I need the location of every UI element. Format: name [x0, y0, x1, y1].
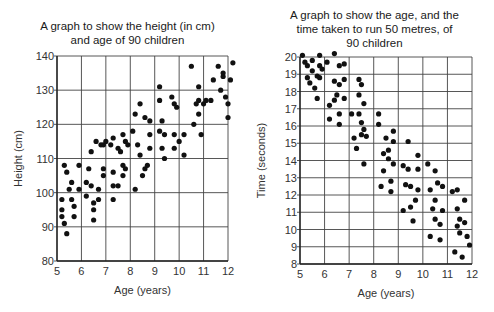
- data-point: [305, 63, 310, 68]
- data-point: [332, 79, 337, 84]
- data-point: [172, 132, 177, 137]
- y-tick-label: 110: [36, 153, 54, 165]
- data-point: [172, 146, 177, 151]
- y-axis-label: Time (seconds): [255, 123, 267, 198]
- data-point: [84, 193, 89, 198]
- x-tick-label: 12: [466, 268, 478, 280]
- data-point: [62, 221, 67, 226]
- data-point: [111, 183, 116, 188]
- grid: [54, 56, 228, 261]
- x-tick-label: 8: [127, 265, 133, 277]
- data-point: [324, 60, 329, 65]
- data-point: [89, 149, 94, 154]
- data-point: [310, 68, 315, 73]
- data-point: [452, 249, 457, 254]
- x-tick-label: 10: [173, 265, 185, 277]
- data-point: [462, 220, 467, 225]
- data-point: [211, 77, 216, 82]
- data-points: [59, 60, 235, 236]
- x-tick-label: 12: [222, 265, 234, 277]
- data-point: [221, 74, 226, 79]
- data-point: [406, 139, 411, 144]
- data-point: [225, 115, 230, 120]
- data-point: [403, 182, 408, 187]
- data-point: [349, 111, 354, 116]
- data-point: [145, 163, 150, 168]
- data-point: [455, 206, 460, 211]
- data-point: [457, 230, 462, 235]
- data-point: [96, 197, 101, 202]
- data-point: [460, 255, 465, 260]
- data-point: [381, 151, 386, 156]
- data-point: [388, 189, 393, 194]
- data-point: [147, 118, 152, 123]
- data-point: [300, 53, 305, 58]
- data-point: [391, 139, 396, 144]
- y-tick-label: 14: [285, 155, 297, 167]
- data-point: [111, 135, 116, 140]
- y-tick-label: 80: [42, 255, 54, 267]
- data-point: [428, 187, 433, 192]
- data-point: [62, 163, 67, 168]
- data-point: [337, 122, 342, 127]
- data-point: [307, 80, 312, 85]
- data-point: [381, 168, 386, 173]
- data-point: [91, 207, 96, 212]
- height-age-chart: A graph to show the height (in cm) and a…: [0, 0, 247, 312]
- x-tick-label: 10: [417, 268, 429, 280]
- y-tick-label: 10: [285, 224, 297, 236]
- data-point: [354, 146, 359, 151]
- data-point: [101, 166, 106, 171]
- data-point: [342, 61, 347, 66]
- data-point: [147, 132, 152, 137]
- scatter-plot: 567891011128090100110120130140Age (years…: [0, 0, 247, 312]
- data-point: [69, 197, 74, 202]
- data-point: [111, 170, 116, 175]
- y-tick-label: 100: [36, 187, 54, 199]
- x-tick-label: 5: [297, 268, 303, 280]
- data-point: [135, 142, 140, 147]
- data-point: [108, 142, 113, 147]
- y-tick-label: 8: [291, 258, 297, 270]
- data-point: [310, 58, 315, 63]
- data-point: [69, 180, 74, 185]
- data-point: [72, 204, 77, 209]
- y-tick-label: 120: [36, 118, 54, 130]
- data-point: [415, 187, 420, 192]
- data-points: [300, 51, 472, 260]
- data-point: [72, 214, 77, 219]
- data-point: [157, 98, 162, 103]
- data-point: [376, 111, 381, 116]
- data-point: [437, 237, 442, 242]
- data-point: [208, 98, 213, 103]
- data-point: [320, 66, 325, 71]
- x-tick-label: 8: [371, 268, 377, 280]
- data-point: [91, 200, 96, 205]
- y-tick-label: 13: [285, 172, 297, 184]
- data-point: [376, 122, 381, 127]
- x-axis-label: Age (years): [114, 284, 171, 296]
- data-point: [327, 117, 332, 122]
- x-tick-label: 6: [78, 265, 84, 277]
- x-tick-label: 7: [346, 268, 352, 280]
- scatter-plot: 56789101112891011121314151617181920Age (…: [247, 0, 494, 312]
- data-point: [425, 161, 430, 166]
- data-point: [181, 132, 186, 137]
- grid: [297, 57, 472, 264]
- data-point: [118, 149, 123, 154]
- y-tick-label: 15: [285, 137, 297, 149]
- data-point: [356, 92, 361, 97]
- data-point: [361, 101, 366, 106]
- data-point: [189, 64, 194, 69]
- x-tick-label: 9: [152, 265, 158, 277]
- data-point: [84, 180, 89, 185]
- data-point: [359, 82, 364, 87]
- data-point: [218, 88, 223, 93]
- data-point: [437, 222, 442, 227]
- data-point: [157, 84, 162, 89]
- time-age-chart: A graph to show the age, and the time ta…: [247, 0, 494, 312]
- x-tick-label: 5: [54, 265, 60, 277]
- data-point: [130, 129, 135, 134]
- y-tick-label: 9: [291, 241, 297, 253]
- data-point: [223, 94, 228, 99]
